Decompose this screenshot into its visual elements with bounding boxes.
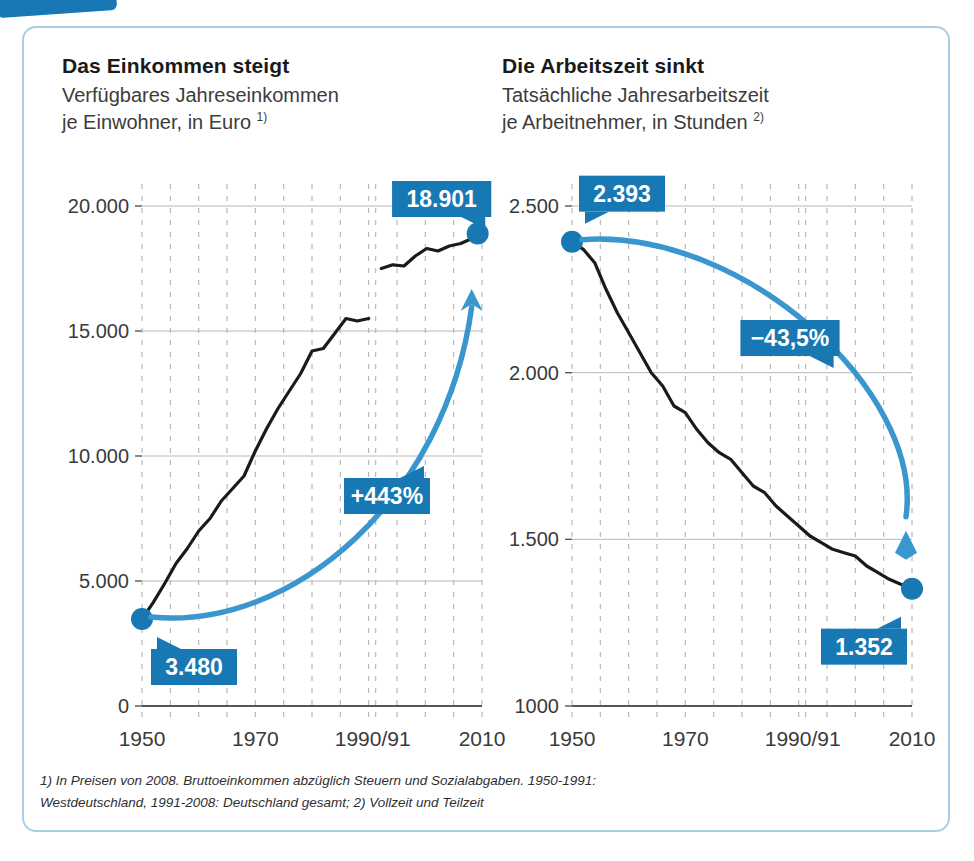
callout-label: 1.352 xyxy=(835,634,893,660)
callout-end-value: 18.901 xyxy=(392,181,491,229)
start-point-marker xyxy=(561,231,583,253)
chart-einkommen: 05.00010.00015.00020.000195019701990/912… xyxy=(68,181,506,750)
decorative-corner-tab xyxy=(0,0,117,18)
callout-tail xyxy=(585,212,609,224)
xtick-label: 1950 xyxy=(119,727,166,750)
callout-change: +443% xyxy=(344,466,430,514)
xtick-label: 1970 xyxy=(232,727,279,750)
xtick-label: 2010 xyxy=(889,727,936,750)
callout-label: −43,5% xyxy=(751,325,830,351)
end-point-marker xyxy=(901,578,923,600)
callout-label: 3.480 xyxy=(165,654,223,680)
ytick-label: 5.000 xyxy=(79,570,129,592)
xtick-label: 2010 xyxy=(459,727,506,750)
infographic-card: Das Einkommen steigt Verfügbares Jahrese… xyxy=(22,26,950,832)
ytick-label: 15.000 xyxy=(68,320,129,342)
callout-label: 18.901 xyxy=(406,186,477,212)
callout-end-value: 1.352 xyxy=(821,617,907,665)
charts-svg: 05.00010.00015.00020.000195019701990/912… xyxy=(24,28,952,834)
callout-start-value: 3.480 xyxy=(151,637,237,685)
ytick-label: 20.000 xyxy=(68,195,129,217)
footnote: 1) In Preisen von 2008. Bruttoeinkommen … xyxy=(40,770,720,814)
data-line-segment-0 xyxy=(142,319,369,620)
xtick-label: 1990/91 xyxy=(765,727,841,750)
callout-start-value: 2.393 xyxy=(579,176,665,224)
ytick-label: 1000 xyxy=(515,695,560,717)
callout-tail xyxy=(157,637,181,649)
footnote-line-2: Westdeutschland, 1991-2008: Deutschland … xyxy=(40,792,720,814)
footnote-line-1: 1) In Preisen von 2008. Bruttoeinkommen … xyxy=(40,770,720,792)
callout-tail xyxy=(877,617,901,629)
ytick-label: 2.000 xyxy=(509,362,559,384)
ytick-label: 2.500 xyxy=(509,195,559,217)
xtick-label: 1950 xyxy=(549,727,596,750)
xtick-label: 1970 xyxy=(662,727,709,750)
ytick-label: 1.500 xyxy=(509,528,559,550)
trend-arrow-head xyxy=(895,531,917,560)
end-point-marker xyxy=(467,222,489,244)
callout-label: 2.393 xyxy=(593,181,651,207)
ytick-label: 0 xyxy=(118,695,129,717)
ytick-label: 10.000 xyxy=(68,445,129,467)
callout-change: −43,5% xyxy=(740,320,839,368)
data-line-segment-1 xyxy=(381,234,477,269)
callout-label: +443% xyxy=(351,483,423,509)
xtick-label: 1990/91 xyxy=(335,727,411,750)
chart-arbeitszeit: 10001.5002.0002.500195019701990/9120102.… xyxy=(509,176,935,750)
callout-tail xyxy=(810,356,834,368)
